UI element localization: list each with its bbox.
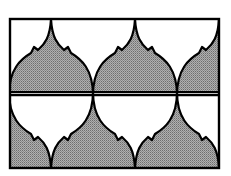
dome-tile xyxy=(0,19,9,95)
tile-area xyxy=(0,19,231,168)
tessellation-diagram xyxy=(0,0,231,176)
top-row xyxy=(0,19,231,95)
dome-tile xyxy=(9,19,93,95)
dome-tile xyxy=(177,19,231,95)
dome-tile xyxy=(93,19,177,95)
